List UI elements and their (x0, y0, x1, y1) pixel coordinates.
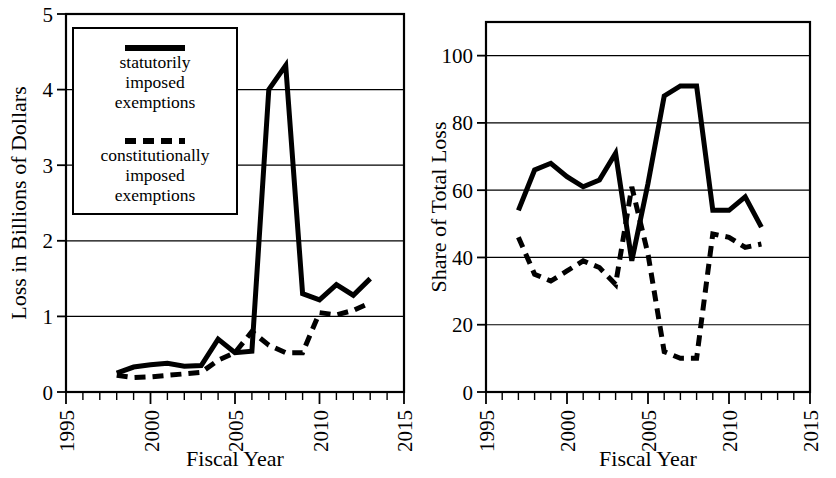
x-axis-title-text: Fiscal Year (599, 446, 697, 471)
y-axis-title-right: Share of Total Loss (426, 122, 451, 293)
figure-two-line-charts: 01234519952000200520102015 Loss in Billi… (0, 0, 836, 478)
x-tick-label: 1995 (475, 410, 499, 452)
x-tick-label: 2000 (556, 410, 580, 452)
y-tick-label: 2 (43, 229, 54, 253)
y-tick-label: 0 (43, 381, 54, 405)
chart-panel-loss-billions: 01234519952000200520102015 Loss in Billi… (0, 0, 420, 478)
legend-label-statutory: statutorily (120, 52, 191, 72)
x-tick-label: 1995 (55, 410, 79, 452)
y-tick-label: 100 (442, 44, 474, 68)
x-tick-label: 2010 (309, 410, 333, 452)
x-tick-label: 2015 (799, 410, 823, 452)
legend-label-constitutional: imposed (125, 165, 185, 185)
legend-label-constitutional: constitutionally (101, 145, 210, 165)
plot-area-right: 02040608010019952000200520102015 (442, 22, 824, 452)
plot-frame (486, 22, 810, 392)
y-tick-label: 60 (452, 179, 473, 203)
y-tick-label: 5 (43, 3, 54, 27)
y-axis-title-text: Share of Total Loss (426, 122, 451, 293)
chart-legend: statutorilyimposedexemptionsconstitution… (73, 28, 237, 214)
x-axis-title-left: Fiscal Year (186, 446, 284, 471)
y-axis-title-left: Loss in Billions of Dollars (6, 86, 31, 319)
y-tick-label: 40 (452, 246, 473, 270)
chart-svg-right: 02040608010019952000200520102015 Share o… (420, 0, 836, 478)
x-tick-label: 2015 (393, 410, 417, 452)
legend-label-statutory: exemptions (115, 92, 196, 112)
y-tick-label: 4 (43, 78, 54, 102)
x-tick-label: 2000 (140, 410, 164, 452)
chart-svg-left: 01234519952000200520102015 Loss in Billi… (0, 0, 420, 478)
y-tick-label: 80 (452, 111, 473, 135)
chart-panel-share-of-total-loss: 02040608010019952000200520102015 Share o… (420, 0, 836, 478)
y-tick-label: 1 (43, 305, 54, 329)
x-axis-title-right: Fiscal Year (599, 446, 697, 471)
x-axis-title-text: Fiscal Year (186, 446, 284, 471)
series-line-statutory (518, 86, 761, 261)
y-tick-label: 0 (463, 381, 474, 405)
x-tick-label: 2010 (718, 410, 742, 452)
y-tick-label: 3 (43, 154, 54, 178)
legend-label-constitutional: exemptions (115, 185, 196, 205)
y-axis-title-text: Loss in Billions of Dollars (6, 86, 31, 319)
y-tick-label: 20 (452, 313, 473, 337)
legend-label-statutory: imposed (125, 72, 185, 92)
